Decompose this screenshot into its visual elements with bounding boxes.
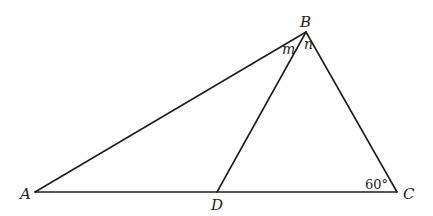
segment-ab xyxy=(35,32,306,192)
angle-label-c-60: 60° xyxy=(365,177,388,192)
vertex-label-d: D xyxy=(210,196,223,214)
vertex-label-c: C xyxy=(403,185,415,203)
geometry-diagram: A B C D m n 60° xyxy=(0,0,433,216)
angle-label-n: n xyxy=(304,36,313,52)
segment-bc xyxy=(306,32,397,192)
triangle-figure: A B C D m n 60° xyxy=(0,0,433,216)
angle-label-m: m xyxy=(282,41,295,57)
vertex-label-a: A xyxy=(18,185,31,203)
vertex-label-b: B xyxy=(299,13,311,31)
